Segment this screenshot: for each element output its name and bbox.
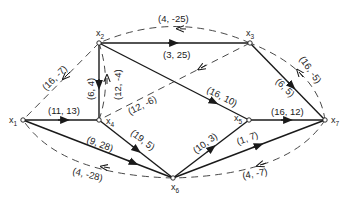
label-x2-x3: (3, 25) — [163, 49, 190, 60]
label-x4-x6: (19, 5) — [129, 127, 157, 153]
label-x1-x4: (11, 13) — [48, 105, 80, 116]
arrow-x6-x5 — [207, 148, 212, 152]
node-label-x1: x1 — [9, 115, 18, 127]
label-x2-x5: (16, 10) — [205, 84, 239, 109]
node-label-x5: x5 — [234, 113, 243, 125]
label-x2-x4: (6, 4) — [85, 78, 96, 100]
label-x3-x7: (6, 5) — [274, 76, 297, 99]
node-x1 — [21, 118, 25, 122]
label-x5-x7: (16, 12) — [271, 106, 304, 117]
label-x1-x6: (9, 28) — [85, 134, 115, 154]
label-x4-x2: (12, -4) — [112, 69, 123, 100]
label-x7-x3: (16, -5) — [297, 54, 324, 85]
node-x6 — [171, 176, 175, 180]
edge-labels: (3, 25) (6, 4) (16, 10) (6, 5) (11, 13) … — [40, 13, 324, 183]
node-label-x3: x3 — [246, 28, 255, 40]
label-x6-x1: (4, -28) — [72, 165, 104, 183]
node-label-x6: x6 — [171, 182, 180, 194]
arrow-x2-x5 — [209, 100, 214, 103]
label-x3-x2: (4, -25) — [158, 13, 189, 24]
arrow-x1-x6 — [128, 161, 134, 164]
edge-x3-x2 — [99, 27, 250, 44]
arrow-x7-x3 — [299, 72, 303, 77]
label-x7-x6: (4, -7) — [241, 166, 268, 181]
node-label-x4: x4 — [106, 116, 115, 128]
node-x5 — [247, 118, 251, 122]
label-x6-x5: (10, 3) — [191, 130, 220, 155]
label-x3-x4: (12, -6) — [126, 93, 158, 117]
node-x2 — [97, 41, 101, 45]
node-label-x2: x2 — [96, 28, 105, 40]
arrow-x3-x4 — [201, 65, 206, 68]
node-x3 — [248, 41, 252, 45]
node-label-x7: x7 — [331, 115, 340, 127]
label-x6-x7: (1, 7) — [235, 129, 260, 147]
arrow-x6-x1 — [104, 167, 110, 168]
edge-x4-x2 — [99, 43, 106, 120]
node-x7 — [323, 118, 327, 122]
arrow-x4-x6 — [132, 146, 137, 150]
node-x4 — [97, 118, 101, 122]
arrow-x6-x7 — [253, 145, 259, 147]
network-flow-diagram: (3, 25) (6, 4) (16, 10) (6, 5) (11, 13) … — [0, 0, 349, 198]
